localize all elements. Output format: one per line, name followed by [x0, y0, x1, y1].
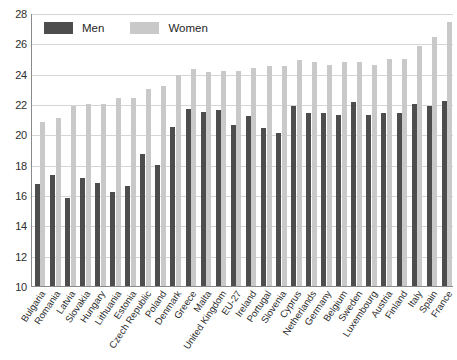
bar-group: [381, 14, 392, 286]
bar-group: [216, 14, 227, 286]
y-tick-label: 16: [0, 190, 27, 202]
bar-men: [155, 165, 160, 286]
bar-group: [291, 14, 302, 286]
bar-group: [170, 14, 181, 286]
legend-label-women: Women: [168, 22, 207, 34]
bar-men: [291, 106, 296, 286]
bar-women: [357, 62, 362, 286]
y-tick-label: 18: [0, 160, 27, 172]
bar-men: [306, 113, 311, 286]
bar-women: [417, 46, 422, 286]
bar-chart: 10121416182022242628 Men Women BulgariaR…: [0, 0, 457, 360]
bar-men: [246, 116, 251, 286]
bar-women: [387, 59, 392, 287]
bar-group: [155, 14, 166, 286]
bar-group: [366, 14, 377, 286]
bar-women: [447, 22, 452, 286]
bar-women: [221, 71, 226, 286]
bar-group: [427, 14, 438, 286]
bar-group: [201, 14, 212, 286]
bar-women: [56, 118, 61, 286]
bar-men: [216, 110, 221, 286]
bar-men: [442, 101, 447, 286]
bar-women: [206, 72, 211, 286]
bar-women: [176, 75, 181, 286]
bar-group: [186, 14, 197, 286]
bar-women: [402, 59, 407, 287]
bar-women: [86, 104, 91, 286]
y-axis-tick-labels: 10121416182022242628: [0, 14, 27, 287]
y-tick-label: 10: [0, 281, 27, 293]
y-tick-label: 24: [0, 69, 27, 81]
y-tick-label: 20: [0, 129, 27, 141]
bar-women: [251, 68, 256, 286]
bar-women: [282, 66, 287, 286]
bar-group: [261, 14, 272, 286]
bar-men: [231, 125, 236, 286]
bar-men: [366, 115, 371, 286]
bar-men: [50, 175, 55, 286]
bar-group: [397, 14, 408, 286]
legend-swatch-men: [44, 22, 73, 34]
bar-group: [321, 14, 332, 286]
y-tick-label: 26: [0, 38, 27, 50]
y-tick-label: 12: [0, 251, 27, 263]
bar-group: [351, 14, 362, 286]
y-tick-label: 22: [0, 99, 27, 111]
bar-men: [125, 186, 130, 286]
bar-women: [327, 65, 332, 286]
y-tick-label: 14: [0, 220, 27, 232]
bar-men: [170, 127, 175, 286]
bar-women: [191, 69, 196, 286]
bar-women: [131, 98, 136, 286]
bar-group: [336, 14, 347, 286]
bar-group: [50, 14, 61, 286]
x-axis-tick-labels: BulgariaRomaniaLatviaSlovakiaHungaryLith…: [31, 289, 453, 360]
bar-men: [412, 104, 417, 286]
bar-men: [80, 178, 85, 286]
bar-men: [381, 113, 386, 286]
bar-women: [116, 98, 121, 286]
bar-men: [427, 106, 432, 286]
bar-group: [306, 14, 317, 286]
chart-legend: Men Women: [44, 22, 208, 34]
bar-women: [432, 37, 437, 286]
bar-men: [397, 113, 402, 286]
bar-women: [312, 62, 317, 286]
legend-item-men: Men: [44, 22, 104, 34]
bar-group: [35, 14, 46, 286]
bar-group: [442, 14, 453, 286]
bar-group: [246, 14, 257, 286]
legend-swatch-women: [130, 22, 159, 34]
legend-item-women: Women: [130, 22, 207, 34]
bar-women: [161, 86, 166, 286]
bar-men: [321, 113, 326, 286]
bar-women: [297, 60, 302, 286]
bar-men: [186, 109, 191, 286]
legend-label-men: Men: [82, 22, 104, 34]
bar-women: [71, 106, 76, 286]
bar-group: [125, 14, 136, 286]
bar-men: [276, 133, 281, 286]
bar-men: [110, 192, 115, 286]
bar-men: [95, 183, 100, 286]
bar-women: [372, 65, 377, 286]
bar-group: [80, 14, 91, 286]
bar-group: [140, 14, 151, 286]
bar-men: [351, 102, 356, 286]
bar-women: [146, 89, 151, 286]
bar-men: [35, 184, 40, 286]
y-tick-label: 28: [0, 8, 27, 20]
bar-series-container: [32, 14, 453, 286]
bar-group: [110, 14, 121, 286]
bar-group: [231, 14, 242, 286]
bar-women: [101, 104, 106, 286]
bar-men: [140, 154, 145, 286]
bar-men: [261, 128, 266, 286]
bar-women: [236, 71, 241, 286]
bar-women: [342, 62, 347, 286]
bar-men: [336, 115, 341, 286]
bar-men: [201, 112, 206, 286]
bar-group: [95, 14, 106, 286]
bar-group: [65, 14, 76, 286]
